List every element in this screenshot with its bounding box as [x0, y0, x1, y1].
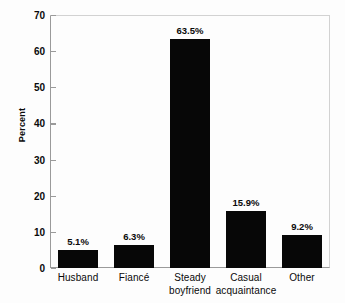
- bar[interactable]: [226, 211, 266, 268]
- bar-slot: 63.5%: [162, 15, 218, 268]
- x-category-label-line1: Other: [289, 272, 315, 283]
- y-tick-label: 70: [34, 9, 45, 22]
- x-axis-category-labels: HusbandFiancéSteadyboyfriendCasualacquai…: [50, 272, 330, 303]
- x-category-label-line1: Husband: [58, 272, 99, 283]
- y-tick-label: 60: [34, 45, 45, 58]
- bar-value-label: 9.2%: [274, 221, 330, 233]
- bar-value-label: 15.9%: [218, 197, 274, 209]
- bar-value-label: 6.3%: [106, 231, 162, 243]
- y-tick-mark: [51, 268, 56, 269]
- y-tick-label: 20: [34, 190, 45, 203]
- bar-value-label: 5.1%: [50, 236, 106, 248]
- bars-layer: 5.1%6.3%63.5%15.9%9.2%: [50, 15, 330, 268]
- bar-slot: 6.3%: [106, 15, 162, 268]
- bar[interactable]: [114, 245, 154, 268]
- bar-value-label: 63.5%: [162, 25, 218, 37]
- x-category-label-line1: Steady: [174, 272, 206, 283]
- bar-chart: Percent 706050403020100 5.1%6.3%63.5%15.…: [0, 0, 345, 303]
- x-category-label-line2: acquaintance: [212, 285, 280, 298]
- y-tick-label: 30: [34, 154, 45, 167]
- bar-slot: 9.2%: [274, 15, 330, 268]
- y-tick-label: 40: [34, 117, 45, 130]
- bar-slot: 5.1%: [50, 15, 106, 268]
- x-category-label-line1: Casual: [230, 272, 262, 283]
- x-category-label-line1: Fiancé: [119, 272, 150, 283]
- bar[interactable]: [58, 250, 98, 268]
- y-tick-label: 50: [34, 81, 45, 94]
- y-axis-title: Percent: [17, 90, 27, 160]
- bar-slot: 15.9%: [218, 15, 274, 268]
- x-category-label: Other: [268, 272, 336, 285]
- bar[interactable]: [170, 39, 210, 269]
- bar[interactable]: [282, 235, 322, 268]
- y-tick-label: 10: [34, 226, 45, 239]
